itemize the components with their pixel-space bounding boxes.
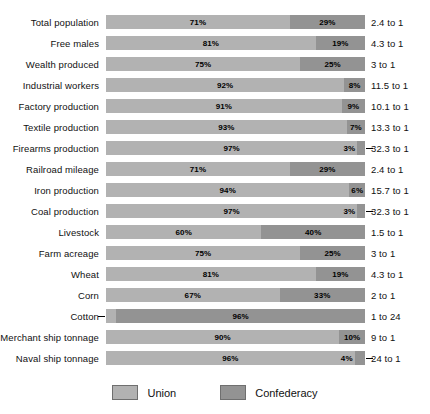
stacked-bar: 75%25% xyxy=(106,246,365,260)
row-ratio-label: 15.7 to 1 xyxy=(365,185,430,196)
chart-row: Naval ship tonnage96%4%24 to 1 xyxy=(0,348,430,368)
stacked-bar: 71%29% xyxy=(106,162,365,176)
chart-row: Wealth produced75%25%3 to 1 xyxy=(0,54,430,74)
bar-segment-union-value: 60% xyxy=(176,228,192,237)
row-category-label: Wealth produced xyxy=(0,59,106,70)
bar-segment-confederacy-value: 6% xyxy=(351,186,363,195)
value-leader-line xyxy=(98,316,105,317)
row-ratio-label: 1.5 to 1 xyxy=(365,227,430,238)
stacked-bar: 71%29% xyxy=(106,15,365,29)
chart-row: Free males81%19%4.3 to 1 xyxy=(0,33,430,53)
row-ratio-label: 32.3 to 1 xyxy=(365,143,430,154)
chart-row: Livestock60%40%1.5 to 1 xyxy=(0,222,430,242)
chart-row: Total population71%29%2.4 to 1 xyxy=(0,12,430,32)
bar-segment-confederacy-value: 4% xyxy=(341,354,353,363)
chart-row: Factory production91%9%10.1 to 1 xyxy=(0,96,430,116)
bar-segment-union: 91% xyxy=(106,99,342,113)
stacked-bar: 94%6% xyxy=(106,183,365,197)
value-leader-line xyxy=(366,358,373,359)
bar-segment-confederacy-value: 29% xyxy=(319,18,335,27)
bar-segment-union: 81% xyxy=(106,36,316,50)
bar-segment-union-value: 94% xyxy=(220,186,236,195)
chart-row: Corn67%33%2 to 1 xyxy=(0,285,430,305)
legend-label: Confederacy xyxy=(255,387,317,399)
bar-segment-union: 67% xyxy=(106,288,280,302)
bar-segment-union-value: 90% xyxy=(214,333,230,342)
row-category-label: Farm acreage xyxy=(0,248,106,259)
stacked-bar: 60%40% xyxy=(106,225,365,239)
bar-segment-union: 60% xyxy=(106,225,261,239)
row-ratio-label: 4.3 to 1 xyxy=(365,38,430,49)
stacked-bar: 67%33% xyxy=(106,288,365,302)
bar-segment-union-value: 97% xyxy=(223,207,239,216)
stacked-bar: 81%19% xyxy=(106,267,365,281)
bar-segment-confederacy: 29% xyxy=(290,162,365,176)
bar-segment-confederacy-value: 19% xyxy=(332,270,348,279)
chart-row: Textile production93%7%13.3 to 1 xyxy=(0,117,430,137)
bar-segment-union-value: 81% xyxy=(203,270,219,279)
row-category-label: Industrial workers xyxy=(0,80,106,91)
chart-row: Cotton4%96%1 to 24 xyxy=(0,306,430,326)
bar-segment-union: 75% xyxy=(106,246,300,260)
bar-segment-confederacy: 40% xyxy=(261,225,365,239)
bar-segment-confederacy: 25% xyxy=(300,57,365,71)
bar-segment-confederacy-value: 10% xyxy=(344,333,360,342)
bar-segment-union-value: 75% xyxy=(195,60,211,69)
chart-row: Industrial workers92%8%11.5 to 1 xyxy=(0,75,430,95)
value-leader-line xyxy=(366,148,373,149)
bar-segment-union: 93% xyxy=(106,120,347,134)
bar-segment-confederacy-value: 25% xyxy=(324,60,340,69)
bar-segment-union: 4% xyxy=(106,309,116,323)
row-ratio-label: 2 to 1 xyxy=(365,290,430,301)
row-ratio-label: 24 to 1 xyxy=(365,353,430,364)
bar-segment-union-value: 75% xyxy=(195,249,211,258)
row-category-label: Total population xyxy=(0,17,106,28)
bar-segment-confederacy-value: 3% xyxy=(343,207,355,216)
row-category-label: Merchant ship tonnage xyxy=(0,332,106,343)
stacked-bar: 93%7% xyxy=(106,120,365,134)
row-category-label: Firearms production xyxy=(0,143,106,154)
row-category-label: Wheat xyxy=(0,269,106,280)
stacked-bar: 92%8% xyxy=(106,78,365,92)
row-ratio-label: 11.5 to 1 xyxy=(365,80,430,91)
row-ratio-label: 3 to 1 xyxy=(365,248,430,259)
legend-swatch xyxy=(220,385,246,400)
bar-segment-confederacy: 19% xyxy=(316,267,365,281)
chart-row: Firearms production97%3%32.3 to 1 xyxy=(0,138,430,158)
row-category-label: Factory production xyxy=(0,101,106,112)
row-category-label: Cotton xyxy=(0,311,106,322)
stacked-bar: 90%10% xyxy=(106,330,365,344)
bar-segment-confederacy: 25% xyxy=(300,246,365,260)
bar-segment-confederacy: 33% xyxy=(280,288,365,302)
bar-segment-confederacy: 29% xyxy=(290,15,365,29)
bar-segment-union: 71% xyxy=(106,162,290,176)
bar-segment-union-value: 71% xyxy=(190,165,206,174)
bar-segment-union: 96% xyxy=(106,351,355,365)
resource-comparison-chart: Total population71%29%2.4 to 1Free males… xyxy=(0,0,430,414)
chart-row: Iron production94%6%15.7 to 1 xyxy=(0,180,430,200)
bar-segment-union: 90% xyxy=(106,330,339,344)
row-category-label: Coal production xyxy=(0,206,106,217)
bar-segment-confederacy: 3% xyxy=(357,204,365,218)
bar-segment-confederacy-value: 7% xyxy=(350,123,362,132)
bar-segment-union: 97% xyxy=(106,204,357,218)
row-category-label: Free males xyxy=(0,38,106,49)
bar-segment-union-value: 97% xyxy=(223,144,239,153)
bar-segment-union: 75% xyxy=(106,57,300,71)
row-category-label: Naval ship tonnage xyxy=(0,353,106,364)
chart-row: Railroad mileage71%29%2.4 to 1 xyxy=(0,159,430,179)
row-ratio-label: 4.3 to 1 xyxy=(365,269,430,280)
bar-segment-confederacy-value: 3% xyxy=(343,144,355,153)
bar-segment-confederacy: 8% xyxy=(344,78,365,92)
chart-rows: Total population71%29%2.4 to 1Free males… xyxy=(0,12,430,368)
bar-segment-union: 94% xyxy=(106,183,349,197)
row-category-label: Textile production xyxy=(0,122,106,133)
bar-segment-confederacy-value: 9% xyxy=(347,102,359,111)
stacked-bar: 96%4% xyxy=(106,351,365,365)
value-leader-line xyxy=(366,211,373,212)
bar-segment-union: 81% xyxy=(106,267,316,281)
chart-row: Coal production97%3%32.3 to 1 xyxy=(0,201,430,221)
bar-segment-confederacy-value: 8% xyxy=(349,81,361,90)
bar-segment-confederacy: 7% xyxy=(347,120,365,134)
bar-segment-confederacy: 96% xyxy=(116,309,365,323)
